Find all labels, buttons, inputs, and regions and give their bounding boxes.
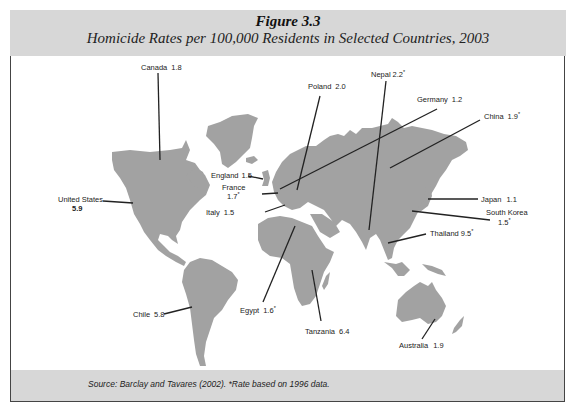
- label-france-rate: 1.7*: [227, 191, 240, 201]
- label-south-korea: South Korea: [486, 208, 529, 217]
- landmass-australia: [396, 282, 446, 324]
- label-united-states: United States: [58, 195, 103, 204]
- landmass-new-zealand: [452, 316, 464, 334]
- landmass-south-america: [182, 258, 238, 366]
- label-united-states-rate: 5.9: [72, 204, 82, 213]
- landmass-indonesia: [384, 262, 410, 276]
- label-thailand: Thailand9.5*: [430, 228, 474, 238]
- label-poland: Poland2.0: [308, 82, 346, 91]
- label-egypt: Egypt1.6*: [240, 305, 277, 315]
- label-france: France: [222, 183, 245, 192]
- label-tanzania: Tanzania6.4: [305, 327, 349, 336]
- world-map: Canada1.8 United States 5.9 Chile5.8 Eng…: [0, 0, 577, 414]
- landmass-madagascar: [322, 272, 330, 290]
- label-japan: Japan1.1: [481, 195, 517, 204]
- leader-united-states: [103, 201, 133, 203]
- leader-south-korea: [412, 211, 490, 220]
- landmass-new-guinea: [422, 264, 446, 276]
- label-canada: Canada1.8: [141, 63, 182, 72]
- label-germany: Germany1.2: [417, 95, 462, 104]
- label-italy: Italy1.5: [206, 208, 234, 217]
- leader-italy: [265, 205, 285, 212]
- landmass-britain: [262, 170, 270, 186]
- label-china: China1.9*: [484, 111, 521, 121]
- label-south-korea-rate: 1.5*: [498, 217, 511, 227]
- label-england: England1.5: [211, 171, 252, 180]
- landmass-iceland: [246, 156, 258, 164]
- leader-chile: [164, 307, 192, 314]
- source-note: Source: Barclay and Tavares (2002). *Rat…: [88, 379, 330, 389]
- figure-footer: Source: Barclay and Tavares (2002). *Rat…: [11, 370, 564, 401]
- label-chile: Chile5.8: [133, 310, 165, 319]
- leader-canada: [158, 73, 160, 160]
- label-nepal: Nepal2.2*: [371, 69, 406, 79]
- label-australia: Australia1.9: [399, 341, 444, 350]
